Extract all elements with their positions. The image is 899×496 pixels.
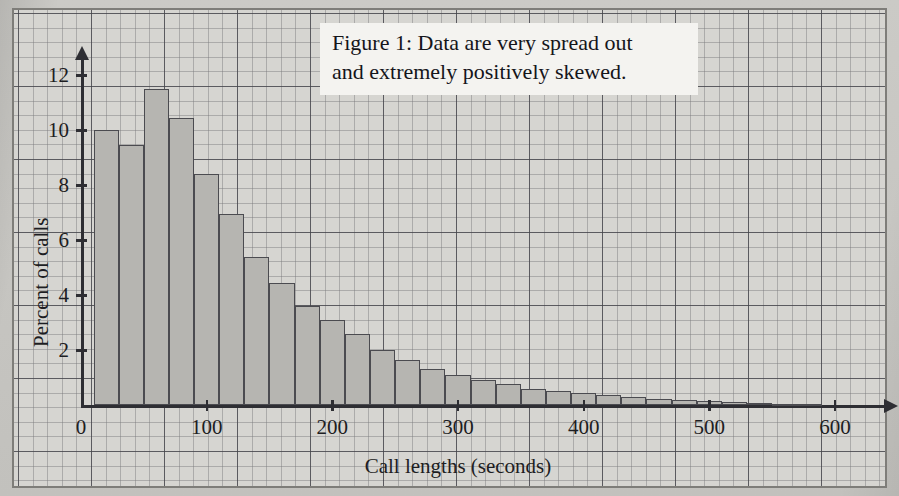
figure-caption: Figure 1: Data are very spread out and e… [320,23,698,95]
figure-caption-line-2: and extremely positively skewed. [332,58,686,87]
figure-page: Call lengths (seconds) Percent of calls … [0,0,899,496]
figure-caption-line-1: Figure 1: Data are very spread out [332,29,686,58]
